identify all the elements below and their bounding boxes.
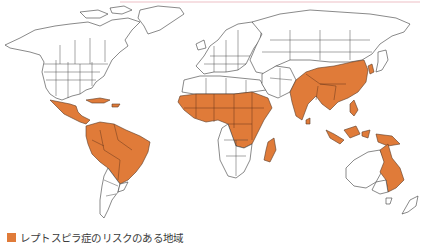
world-map <box>0 0 429 226</box>
north-america <box>5 6 184 124</box>
europe <box>196 22 262 74</box>
legend-label: レプトスピラ症のリスクのある地域 <box>20 230 183 244</box>
south-america <box>86 122 150 218</box>
africa <box>178 76 276 178</box>
legend: レプトスピラ症のリスクのある地域 <box>7 230 183 244</box>
legend-swatch-risk <box>7 233 16 242</box>
australia <box>346 144 418 214</box>
asia <box>250 10 410 146</box>
